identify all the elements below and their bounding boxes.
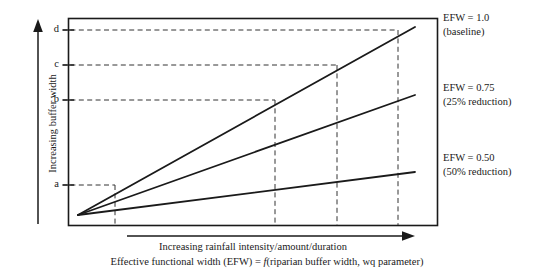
legend-label-efw-0-75: EFW = 0.75 [443, 81, 512, 95]
legend-label-efw-1-0: EFW = 1.0 [443, 11, 489, 25]
caption-part-after: (riparian buffer width, wq parameter) [266, 256, 423, 267]
x-axis-arrow [127, 231, 415, 241]
legend-note-efw-0-50: (50% reduction) [443, 165, 512, 179]
figure-caption: Effective functional width (EFW) = f(rip… [0, 256, 534, 267]
y-axis-title: Increasing buffer width [47, 24, 58, 224]
y-axis-arrow [33, 19, 43, 224]
figure-container: d c b a Increasing buffer width EFW = 1.… [0, 0, 534, 273]
x-axis-title: Increasing rainfall intensity/amount/dur… [68, 241, 438, 252]
caption-part-before: Effective functional width (EFW) = [111, 256, 264, 267]
legend-entry-efw-0-50: EFW = 0.50 (50% reduction) [443, 151, 512, 178]
legend-entry-efw-1-0: EFW = 1.0 (baseline) [443, 11, 489, 38]
legend-label-efw-0-50: EFW = 0.50 [443, 151, 512, 165]
legend-note-efw-0-75: (25% reduction) [443, 95, 512, 109]
chart-canvas [0, 0, 534, 273]
plot-frame [69, 19, 438, 226]
legend-entry-efw-0-75: EFW = 0.75 (25% reduction) [443, 81, 512, 108]
legend-note-efw-1-0: (baseline) [443, 25, 489, 39]
